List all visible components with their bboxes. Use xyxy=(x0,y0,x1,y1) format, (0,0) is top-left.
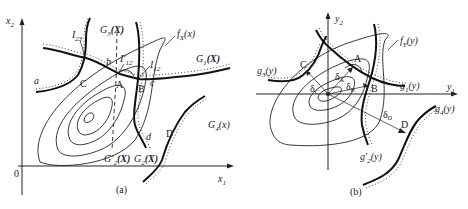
point-D: D xyxy=(166,128,173,139)
g1-label: G1(X) xyxy=(196,53,220,67)
point-D-b: D xyxy=(401,119,408,130)
i23-label: I23 xyxy=(71,29,83,43)
g4-label: G4(x) xyxy=(208,119,231,133)
delta-c-label: δC xyxy=(310,83,319,95)
point-b-lower: b xyxy=(106,56,111,67)
point-a-lower: a xyxy=(34,75,39,86)
x2-axis-label: x2 xyxy=(5,15,14,29)
x2-axis-arrow-icon xyxy=(20,18,25,25)
point-A-b: A xyxy=(354,53,362,64)
point-B: B xyxy=(138,83,145,94)
caption-a: (a) xyxy=(116,184,127,196)
figure: x2 x1 0 fX(x) G3(X) G1(X) xyxy=(0,0,468,209)
point-d-lower: d xyxy=(146,131,152,142)
fy-leader xyxy=(388,40,398,50)
panel-b: y2 y1 fY(y) g1(y) g3(y) g'2(y) g4(y) xyxy=(256,12,458,198)
g3-label-b: g3(y) xyxy=(257,65,277,79)
fx-leader xyxy=(165,36,175,46)
g3-label: G3(X) xyxy=(100,24,124,38)
point-B-b: B xyxy=(371,83,378,94)
point-c-lower: c xyxy=(150,77,155,88)
origin-label: 0 xyxy=(14,168,19,179)
delta-d-label: δD xyxy=(383,109,393,121)
g2p-label-b: g'2(y) xyxy=(360,151,382,165)
point-C: C xyxy=(80,78,87,89)
fy-label: fY(y) xyxy=(400,35,418,49)
y1-axis-label: y1 xyxy=(446,81,455,95)
g3-constraint-curve-b xyxy=(268,36,326,81)
x1-axis-arrow-icon xyxy=(227,164,234,169)
panel-a: x2 x1 0 fX(x) G3(X) G1(X) xyxy=(5,15,234,196)
g1-label-b: g1(y) xyxy=(400,80,420,94)
y2-axis-arrow-icon xyxy=(326,12,331,19)
delta-b-label: δB xyxy=(346,81,355,93)
fx-label: fX(x) xyxy=(177,28,196,42)
point-A: A xyxy=(116,79,124,90)
g4-constraint-curve-b xyxy=(363,106,436,185)
g1-hatching-b xyxy=(319,28,408,83)
x1-axis-label: x1 xyxy=(217,173,226,187)
delta-a-label: δA xyxy=(335,71,345,83)
g4-constraint-curve xyxy=(143,96,205,182)
g2-label: G2(X) xyxy=(134,153,158,167)
y2-axis-label: y2 xyxy=(334,13,343,27)
g4-label-b: g4(y) xyxy=(435,103,455,117)
g2p-label: G'2(X) xyxy=(104,153,130,167)
point-C-b: C xyxy=(300,59,307,70)
caption-b: (b) xyxy=(350,186,362,198)
i12-label: I12 xyxy=(149,59,161,73)
distance-vectors xyxy=(306,67,406,133)
